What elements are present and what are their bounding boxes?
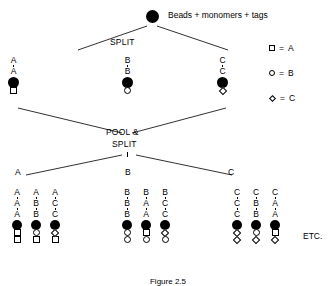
unit-stack <box>124 229 131 243</box>
diamond-icon <box>269 94 276 101</box>
tag-label: C <box>219 67 225 76</box>
monomer-label: B <box>125 56 131 65</box>
square-icon <box>14 229 21 236</box>
unit-stack <box>124 87 131 94</box>
monomer-label: B <box>162 188 168 197</box>
split-label-round1: SPLIT <box>110 38 135 47</box>
unit-stack <box>234 229 240 243</box>
square-icon <box>269 45 275 51</box>
root-bead-chain <box>146 10 159 23</box>
unit-stack <box>33 229 40 243</box>
split-label-round2: SPLIT <box>112 140 137 149</box>
unit-stack <box>162 229 169 243</box>
legend-equals: = <box>279 68 284 78</box>
round1-chain-right: C C <box>217 56 228 94</box>
pool-split-tick <box>127 152 128 157</box>
tag-label-2: B <box>33 210 39 219</box>
legend-item-c: = C <box>270 93 295 103</box>
tag-label-2: C <box>52 210 58 219</box>
unit-stack <box>14 229 21 243</box>
tag-label-2: A <box>272 210 278 219</box>
figure-caption: Figure 2.5 <box>140 277 196 286</box>
round2-branch-label-middle: B <box>125 168 131 177</box>
round1-chain-left: A A <box>8 56 19 94</box>
tag-label: A <box>11 67 17 76</box>
legend-item-b: = B <box>269 68 294 78</box>
diamond-icon <box>252 235 260 243</box>
tag-label-1: B <box>33 199 39 208</box>
legend-equals: = <box>280 93 285 103</box>
unit-stack <box>220 87 226 94</box>
round2-chain-a1: A A A <box>12 188 22 243</box>
round2-branch-label-left: A <box>15 168 21 177</box>
bead-icon <box>146 10 159 23</box>
round2-branch-label-right: C <box>228 168 234 177</box>
square-icon <box>143 229 150 236</box>
tag-label-2: A <box>14 210 20 219</box>
circle-icon <box>269 70 275 76</box>
legend-label: B <box>288 68 294 78</box>
tag-label-1: A <box>272 199 278 208</box>
monomer-label: C <box>219 56 225 65</box>
square-icon <box>10 87 17 94</box>
round2-chain-c2: C B B <box>251 188 261 243</box>
monomer-label: C <box>234 188 240 197</box>
tag-label-1: A <box>143 199 149 208</box>
tag-label-2: B <box>124 210 130 219</box>
legend-label: C <box>289 93 295 103</box>
tag-label-1: C <box>52 199 58 208</box>
circle-icon <box>124 229 131 236</box>
circle-icon <box>124 87 131 94</box>
unit-stack <box>253 229 260 243</box>
round2-chain-a2: A B B <box>31 188 41 243</box>
pool-label: POOL & <box>106 128 139 137</box>
round2-chain-b3: B C C <box>160 188 170 243</box>
tag-label-2: A <box>143 210 149 219</box>
round2-chain-b2: B A A <box>141 188 151 243</box>
round2-chain-a3: A C C <box>50 188 60 243</box>
circle-icon <box>124 236 131 243</box>
tag-label: B <box>125 67 131 76</box>
square-icon <box>33 236 40 243</box>
round1-chain-middle: B B <box>122 56 133 94</box>
legend-equals: = <box>279 43 284 53</box>
monomer-label: A <box>33 188 39 197</box>
monomer-label: B <box>124 188 130 197</box>
unit-stack <box>10 87 17 94</box>
tag-label-2: B <box>253 210 259 219</box>
diagram-title: Beads + monomers + tags <box>168 11 268 20</box>
diamond-icon <box>271 235 279 243</box>
round2-chain-b1: B B B <box>122 188 132 243</box>
monomer-label: B <box>143 188 149 197</box>
monomer-label: A <box>52 188 58 197</box>
legend-item-a: = A <box>269 43 294 53</box>
diamond-icon <box>233 235 241 243</box>
tag-label-2: C <box>162 210 168 219</box>
monomer-label: A <box>14 188 20 197</box>
monomer-label: C <box>272 188 278 197</box>
circle-icon <box>143 236 150 243</box>
round2-chain-c1: C C C <box>232 188 242 243</box>
diamond-icon <box>218 86 226 94</box>
monomer-label: A <box>11 56 17 65</box>
circle-icon <box>33 229 40 236</box>
tag-label-1: B <box>124 199 130 208</box>
tag-label-1: A <box>14 199 20 208</box>
square-icon <box>14 236 21 243</box>
etc-label: ETC. <box>303 232 322 241</box>
tag-label-1: C <box>234 199 240 208</box>
unit-stack <box>272 229 279 243</box>
tag-label-2: C <box>234 210 240 219</box>
tag-label-1: B <box>253 199 259 208</box>
monomer-label: C <box>253 188 259 197</box>
unit-stack <box>52 229 59 243</box>
diamond-icon <box>161 228 169 236</box>
tag-label-1: C <box>162 199 168 208</box>
legend-label: A <box>288 43 294 53</box>
unit-stack <box>143 229 150 243</box>
round2-chain-c3: C A A <box>270 188 280 243</box>
